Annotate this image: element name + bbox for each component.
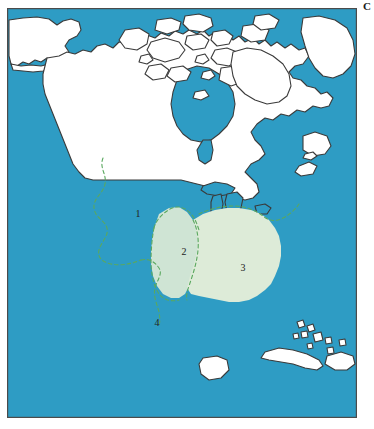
region-label-2: 2 bbox=[182, 246, 187, 257]
map-frame: 1 2 3 4 bbox=[7, 8, 357, 418]
bahamas-island-7 bbox=[339, 339, 346, 346]
region-label-1: 1 bbox=[136, 208, 141, 219]
region-3-area bbox=[187, 208, 281, 302]
panel-letter: C bbox=[363, 0, 371, 12]
region-label-3: 3 bbox=[241, 262, 246, 273]
bahamas-island-4 bbox=[313, 332, 323, 342]
region-label-4: 4 bbox=[155, 317, 160, 328]
newfoundland bbox=[303, 132, 331, 156]
bahamas-island-2 bbox=[307, 324, 315, 332]
shaded-regions-group bbox=[151, 207, 281, 302]
bahamas-island-9 bbox=[307, 343, 313, 349]
bahamas-island-6 bbox=[327, 347, 334, 354]
north-america-map: 1 2 3 4 bbox=[7, 8, 357, 418]
bahamas-island-3 bbox=[301, 331, 308, 338]
arctic-island-victoria bbox=[147, 38, 185, 62]
figure-root: C bbox=[0, 0, 374, 429]
bahamas-island-5 bbox=[325, 337, 332, 344]
bahamas-island-8 bbox=[293, 333, 299, 339]
bahamas-island-1 bbox=[297, 320, 305, 328]
